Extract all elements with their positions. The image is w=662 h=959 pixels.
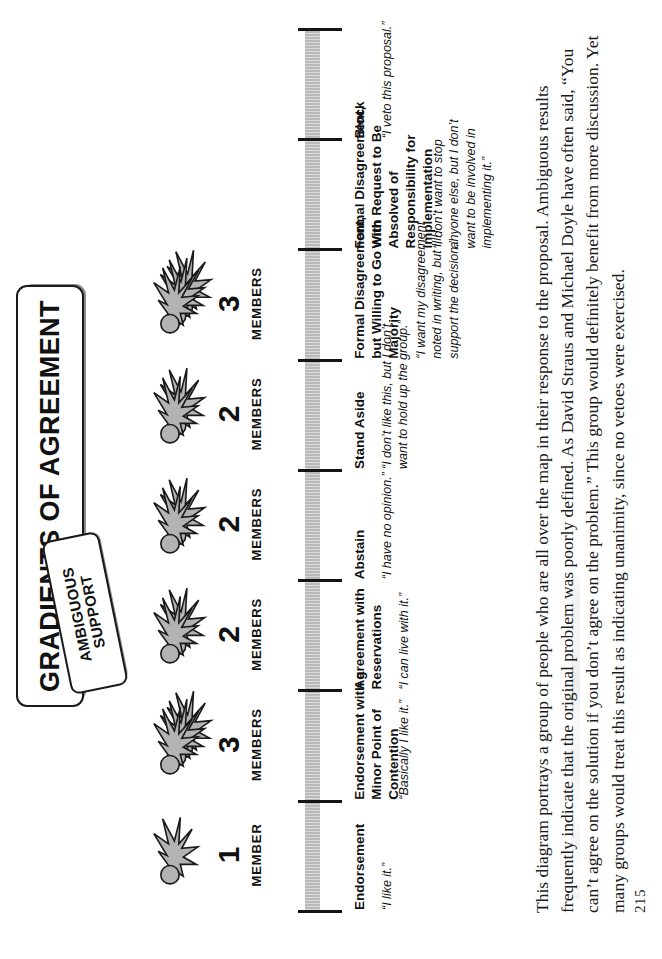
member-group-icon <box>126 800 214 910</box>
member-group-icon <box>126 469 214 579</box>
page-number: 215 <box>632 889 649 913</box>
scale-tick <box>298 138 342 141</box>
scanned-page: GRADIENTS OF AGREEMENT AMBIGUOUS SUPPORT… <box>0 0 662 959</box>
member-icon-slot <box>126 249 214 359</box>
agreement-scale-bar <box>305 31 320 913</box>
member-group-icon <box>126 690 214 800</box>
member-group-icon <box>126 249 214 359</box>
level-quote: “I can live with it.” <box>396 538 412 690</box>
member-count: 3 <box>214 249 244 359</box>
level-quote: “I don’t want to stop anyone else, but I… <box>430 97 495 249</box>
scale-tick <box>298 359 342 362</box>
level-label: Block <box>352 0 369 138</box>
member-count-unit: MEMBERS <box>249 690 264 800</box>
scale-tick <box>298 910 342 913</box>
scale-tick <box>298 800 342 803</box>
scale-tick <box>298 469 342 472</box>
body-paragraph: This diagram portrays a group of people … <box>530 33 632 913</box>
member-count-unit: MEMBERS <box>249 579 264 689</box>
scale-tick <box>298 28 342 31</box>
member-icon-slot <box>126 359 214 469</box>
member-count: 3 <box>214 690 244 800</box>
scale-tick <box>298 579 342 582</box>
scale-tick <box>298 249 342 252</box>
member-count: 2 <box>214 579 244 689</box>
member-group-icon <box>126 359 214 469</box>
member-icon-slot <box>126 469 214 579</box>
member-count: 1 <box>214 800 244 910</box>
scale-tick <box>298 690 342 693</box>
member-icon-slot <box>126 579 214 689</box>
level-quote: “I veto this proposal.” <box>379 0 395 138</box>
member-icon-slot <box>126 690 214 800</box>
member-count-unit: MEMBERS <box>249 359 264 469</box>
member-count-unit: MEMBERS <box>249 469 264 579</box>
member-count: 2 <box>214 469 244 579</box>
member-count-unit: MEMBER <box>249 800 264 910</box>
member-icon-slot <box>126 800 214 910</box>
member-group-icon <box>126 579 214 689</box>
member-count-unit: MEMBERS <box>249 249 264 359</box>
member-count: 2 <box>214 359 244 469</box>
